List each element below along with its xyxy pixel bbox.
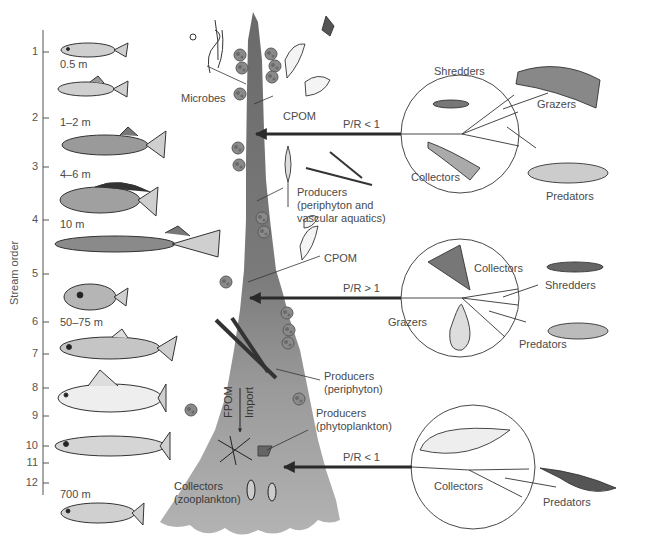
shredder-nymph-icon-1 [433, 100, 469, 108]
fish-icon-6 [64, 284, 128, 310]
label-producers-low-1: Producers [316, 407, 366, 420]
axis-tick-marks [43, 52, 49, 483]
net-caddis-icon [428, 245, 470, 290]
circle1-predators: Predators [546, 190, 594, 203]
tick-11: 11 [24, 456, 38, 468]
label-collectors-low-2: (zooplankton) [174, 493, 241, 506]
predator-larva-icon-3 [540, 468, 616, 491]
label-producers-upper-3: vascular aquatics) [297, 212, 386, 225]
label-microbes: Microbes [181, 92, 226, 105]
label-fpom: FPOM [222, 386, 235, 418]
label-producers-mid-1: Producers [324, 370, 374, 383]
fish-icon-7 [60, 329, 177, 361]
circle2-shredders: Shredders [545, 279, 596, 292]
width-label-2: 1–2 m [60, 116, 91, 129]
tick-9: 9 [24, 409, 38, 421]
circle3-predators: Predators [543, 496, 591, 509]
width-label-3: 4–6 m [60, 168, 91, 181]
snail-icon [450, 304, 470, 350]
circle1-shredders: Shredders [434, 65, 485, 78]
width-label-1: 0.5 m [60, 58, 88, 71]
pr-ratio-label-1: P/R < 1 [343, 118, 380, 131]
label-producers-mid-2: (periphyton) [324, 383, 383, 396]
tick-8: 8 [24, 381, 38, 393]
label-collectors-low-1: Collectors [174, 480, 223, 493]
predator-larva-icon-1 [528, 163, 608, 183]
circle3-collectors: Collectors [434, 480, 483, 493]
tick-5: 5 [24, 267, 38, 279]
tick-10: 10 [24, 439, 38, 451]
label-producers-upper-1: Producers [297, 186, 347, 199]
label-cpom-upper: CPOM [283, 110, 316, 123]
width-label-4: 10 m [60, 218, 84, 231]
fish-icon-10 [61, 503, 144, 525]
circle2-predators: Predators [519, 338, 567, 351]
fish-icon-1 [61, 43, 128, 57]
width-label-6: 700 m [60, 488, 91, 501]
tick-6: 6 [24, 315, 38, 327]
label-cpom-mid: CPOM [324, 252, 357, 265]
diagram-canvas [0, 0, 661, 547]
microbe-icons [190, 20, 223, 73]
fish-icon-2 [58, 76, 128, 97]
tick-7: 7 [24, 347, 38, 359]
label-producers-low-2: (phytoplankton) [316, 420, 392, 433]
pie-circle-3 [411, 405, 556, 529]
pr-ratio-label-2: P/R > 1 [343, 282, 380, 295]
predator-larva-icon-2 [548, 323, 608, 339]
fish-icon-8 [58, 370, 166, 412]
tick-3: 3 [24, 160, 38, 172]
width-label-5: 50–75 m [60, 316, 103, 329]
tick-12: 12 [24, 476, 38, 488]
axis-title: Stream order [8, 241, 20, 305]
tick-2: 2 [24, 111, 38, 123]
label-producers-upper-2: (periphyton and [297, 199, 373, 212]
fish-icon-9 [55, 432, 170, 460]
pr-ratio-label-3: P/R < 1 [343, 451, 380, 464]
fish-icon-4 [60, 183, 158, 216]
circle1-grazers: Grazers [537, 98, 576, 111]
shredder-nymph-icon-2 [547, 262, 603, 272]
tick-1: 1 [24, 45, 38, 57]
circle2-collectors: Collectors [474, 262, 523, 275]
label-import: Import [243, 387, 256, 418]
fish-icon-3 [62, 127, 166, 158]
circle1-collectors: Collectors [411, 171, 460, 184]
circle2-grazers: Grazers [388, 316, 427, 329]
mussel-icon [420, 428, 510, 453]
tick-4: 4 [24, 213, 38, 225]
